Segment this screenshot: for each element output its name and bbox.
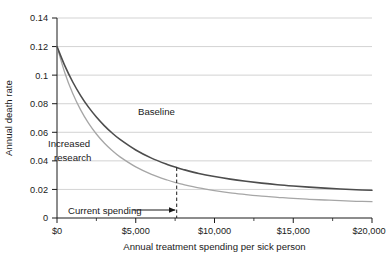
y-tick-label-0.02: 0.02 [30, 185, 48, 195]
x-tick-label-5000: $5,000 [122, 226, 150, 236]
x-axis-title: Annual treatment spending per sick perso… [123, 241, 305, 252]
x-tick-label-15000: $15,000 [277, 226, 310, 236]
y-axis-title: Annual death rate [3, 80, 14, 156]
x-axis-ticks [57, 218, 372, 223]
x-tick-label-20000: $20,000 [352, 226, 385, 236]
y-tick-label-0.14: 0.14 [30, 13, 48, 23]
increased-research-series-label-line2: research [54, 152, 91, 163]
x-tick-label-0: $0 [52, 226, 62, 236]
y-tick-label-0.04: 0.04 [30, 156, 48, 166]
y-axis-tick-labels: 0.14 0.12 0.1 0.08 0.06 0.04 0.02 0 [30, 13, 48, 223]
y-tick-label-0.1: 0.1 [35, 71, 48, 81]
chart-figure: 0.14 0.12 0.1 0.08 0.06 0.04 0.02 0 $0 [0, 0, 392, 263]
x-tick-label-10000: $10,000 [198, 226, 231, 236]
y-tick-label-0: 0 [43, 213, 48, 223]
increased-research-series-label-line1: Increased [48, 138, 90, 149]
x-axis-tick-labels: $0 $5,000 $10,000 $15,000 $20,000 [52, 226, 386, 236]
chart-canvas: 0.14 0.12 0.1 0.08 0.06 0.04 0.02 0 $0 [0, 0, 392, 263]
y-tick-label-0.08: 0.08 [30, 99, 48, 109]
y-axis-ticks [52, 18, 57, 218]
baseline-series-label: Baseline [138, 106, 175, 117]
y-tick-label-0.12: 0.12 [30, 42, 48, 52]
y-tick-label-0.06: 0.06 [30, 128, 48, 138]
current-spending-annotation-label: Current spending [68, 205, 142, 216]
